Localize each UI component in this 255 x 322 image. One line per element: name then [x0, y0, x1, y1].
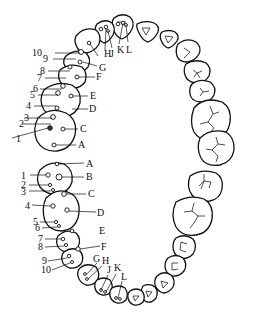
label-upper-A: A — [78, 139, 86, 150]
label-lower-3: 3 — [21, 186, 26, 197]
label-upper-D: D — [89, 103, 96, 114]
label-upper-C: C — [80, 123, 87, 134]
tooth-upper-molar-r2 — [198, 131, 234, 166]
label-upper-J: J — [110, 48, 114, 59]
label-upper-4: 4 — [26, 100, 31, 111]
label-lower-C: C — [88, 188, 95, 199]
label-lower-E: E — [99, 225, 105, 236]
label-lower-J: J — [107, 264, 111, 275]
label-lower-F: F — [101, 241, 107, 252]
tooth-lower-incisor-r1 — [128, 289, 145, 305]
label-upper-1: 1 — [16, 133, 21, 144]
label-lower-G: G — [93, 253, 100, 264]
dental-arch-diagram: 10 9 8 7 6 5 4 3 2 1 H J K L G F E D C B… — [0, 0, 255, 322]
tooth-lower-molar-r1 — [173, 197, 212, 235]
tooth-lower-canine-r — [155, 273, 174, 293]
tooth-upper-incisor-l1 — [112, 15, 133, 39]
label-upper-9: 9 — [43, 53, 48, 64]
label-upper-2: 2 — [19, 118, 24, 129]
label-lower-6: 6 — [35, 222, 40, 233]
label-lower-B: B — [86, 171, 93, 182]
upper-right-teeth — [137, 22, 234, 166]
tooth-upper-premolar-r1 — [184, 61, 210, 83]
label-upper-10: 10 — [32, 47, 42, 58]
label-lower-10: 10 — [41, 264, 51, 275]
tooth-upper-canine-l — [75, 29, 100, 53]
label-upper-E: E — [90, 90, 96, 101]
label-upper-F: F — [96, 71, 102, 82]
label-lower-L: L — [121, 271, 127, 282]
label-lower-8: 8 — [38, 241, 43, 252]
label-upper-L: L — [126, 44, 132, 55]
lower-left-teeth — [38, 162, 128, 303]
tooth-upper-incisor-r2 — [160, 31, 178, 49]
lower-right-teeth — [128, 171, 223, 305]
label-lower-A: A — [86, 158, 94, 169]
label-upper-K: K — [117, 44, 125, 55]
label-lower-D: D — [97, 207, 104, 218]
label-lower-4: 4 — [25, 200, 30, 211]
label-upper-3: 3 — [24, 112, 29, 123]
tooth-lower-molar-l1 — [38, 163, 73, 194]
label-upper-7: 7 — [37, 72, 42, 83]
label-upper-5: 5 — [30, 89, 35, 100]
